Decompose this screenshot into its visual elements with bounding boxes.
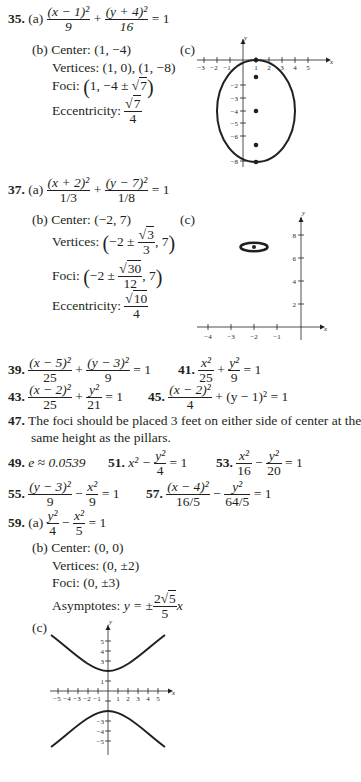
operator: +: [75, 389, 83, 404]
value: (0, 0): [94, 540, 123, 555]
svg-text:x: x: [171, 689, 176, 697]
operator: −: [255, 455, 263, 470]
denominator: 4: [154, 464, 166, 478]
fraction: y²20: [266, 449, 282, 478]
fraction: x²5: [73, 509, 85, 538]
svg-text:−4: −4: [204, 333, 212, 341]
radicand: 3: [146, 226, 154, 242]
numerator: (x − 2)²: [168, 383, 212, 398]
fraction: y²4: [154, 449, 166, 478]
numerator: x²: [236, 449, 252, 464]
answer-59-b-center: (b) Center: (0, 0): [32, 540, 124, 556]
operator: −: [62, 515, 70, 530]
rest: + (y − 1)² = 1: [215, 389, 288, 404]
problem-number: 35.: [8, 11, 25, 26]
svg-text:1: 1: [101, 678, 105, 686]
denominator: 4: [168, 398, 212, 412]
svg-text:6: 6: [293, 255, 297, 263]
operator: +: [94, 182, 102, 197]
answer-45: 45. (x − 2)²4 + (y − 1)² = 1: [148, 383, 288, 412]
numerator: √3: [138, 228, 155, 243]
denominator: 16/5: [166, 495, 210, 509]
svg-text:−4: −4: [63, 695, 71, 703]
part-label: (b): [32, 212, 48, 227]
numerator: (y − 3)²: [28, 480, 72, 495]
fraction: √104: [124, 292, 148, 321]
paren: ): [168, 232, 175, 254]
value: e ≈ 0.0539: [28, 455, 85, 470]
paren: (: [83, 76, 90, 98]
numerator: (y + 4)²: [105, 5, 149, 20]
svg-text:−2: −2: [250, 333, 258, 341]
svg-text:4: 4: [293, 278, 297, 286]
svg-text:y: y: [108, 618, 113, 626]
fraction: y²64/5: [224, 480, 250, 509]
fraction: (x + 2)²1/3: [47, 176, 91, 205]
problem-number: 43.: [8, 389, 25, 404]
value: (1, −4): [94, 42, 131, 57]
problem-number: 57.: [146, 486, 163, 501]
coefficient: 2: [154, 591, 161, 606]
part-label: (b): [32, 540, 48, 555]
rhs: = 1: [170, 455, 188, 470]
svg-text:5: 5: [306, 64, 310, 72]
svg-text:−4: −4: [231, 108, 239, 116]
numerator: (x − 4)²: [166, 480, 210, 495]
radicand: 7: [139, 77, 147, 93]
rhs: = 1: [152, 182, 170, 197]
answer-35-a: 35. (a) (x − 1)²9 + (y + 4)²16 = 1: [8, 5, 169, 34]
value: , 7: [142, 268, 156, 283]
operator: +: [94, 11, 102, 26]
fraction: (x − 2)²25: [28, 383, 72, 412]
fraction: (y − 3)²9: [28, 480, 72, 509]
problem-number: 59.: [8, 515, 25, 530]
svg-text:8: 8: [293, 232, 297, 240]
svg-text:−5: −5: [231, 120, 239, 128]
svg-text:−3: −3: [231, 95, 239, 103]
label: Foci:: [52, 268, 80, 283]
answer-37-a: 37. (a) (x + 2)²1/3 + (y − 7)²1/8 = 1: [8, 176, 169, 205]
svg-text:3: 3: [101, 658, 105, 666]
operator: +: [75, 362, 83, 377]
denominator: 20: [266, 464, 282, 478]
answer-51: 51. x² − y²4 = 1: [108, 449, 187, 478]
text-line: The foci should be placed 3 feet on eith…: [28, 413, 361, 428]
svg-text:−1: −1: [273, 333, 281, 341]
answer-35-vertices: Vertices: (1, 0), (1, −8): [52, 60, 175, 76]
svg-text:−5: −5: [53, 695, 61, 703]
svg-text:−3: −3: [73, 695, 81, 703]
part-label: (b): [32, 42, 48, 57]
svg-text:5: 5: [101, 638, 105, 646]
svg-text:x: x: [329, 58, 334, 66]
numerator: (y − 3)²: [86, 356, 130, 371]
svg-text:4: 4: [146, 695, 150, 703]
fraction: √74: [124, 97, 141, 126]
svg-text:5: 5: [156, 695, 160, 703]
rhs: = 1: [133, 362, 151, 377]
numerator: (x − 5)²: [28, 356, 72, 371]
svg-text:−1: −1: [93, 695, 101, 703]
rhs: = 1: [88, 515, 106, 530]
problem-number: 45.: [148, 389, 165, 404]
denominator: 64/5: [224, 495, 250, 509]
label: Foci:: [52, 575, 80, 590]
numerator: √10: [124, 292, 148, 307]
label: Vertices:: [52, 558, 99, 573]
svg-text:2: 2: [267, 64, 271, 72]
label: Center:: [51, 540, 91, 555]
problem-number: 47.: [8, 413, 25, 428]
denominator: 4: [124, 112, 141, 126]
svg-text:1: 1: [116, 695, 120, 703]
fraction: y²4: [47, 509, 59, 538]
hyperbola-graph-59: −5 −4 −3 −2 −1 1 2 3 4 5 5 4 3 1 −3 −4 −…: [40, 615, 190, 765]
answer-39: 39. (x − 5)²25 + (y − 3)²9 = 1: [8, 356, 151, 385]
denominator: 25: [28, 398, 72, 412]
answer-59-vertices: Vertices: (0, ±2): [52, 558, 139, 574]
fraction: (x − 4)²16/5: [166, 480, 210, 509]
part-label: (a): [28, 11, 43, 26]
numerator: y²: [228, 356, 240, 371]
value: y = ±: [124, 598, 153, 613]
answer-37-eccentricity: Eccentricity: √104: [52, 292, 148, 321]
svg-text:2: 2: [293, 301, 297, 309]
radicand: 30: [127, 260, 142, 276]
